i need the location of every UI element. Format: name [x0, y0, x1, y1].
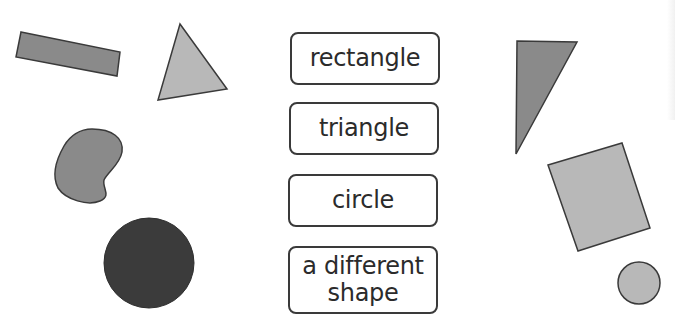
square-shape[interactable] [548, 143, 650, 251]
right-edge-strip [667, 0, 675, 120]
kidney-blob-shape[interactable] [55, 129, 122, 203]
label-text: circle [332, 187, 394, 214]
label-rectangle[interactable]: rectangle [290, 32, 440, 85]
label-different-shape[interactable]: a different shape [288, 246, 438, 314]
label-text: rectangle [310, 45, 421, 72]
triangle-shape-left[interactable] [158, 24, 227, 100]
triangle-shape-right[interactable] [516, 41, 577, 154]
label-text-line-2: shape [328, 280, 399, 307]
small-circle-shape[interactable] [618, 262, 660, 304]
rectangle-shape[interactable] [16, 32, 120, 76]
label-text-line-1: a different [302, 253, 423, 280]
label-circle[interactable]: circle [288, 174, 438, 227]
dark-circle-shape[interactable] [104, 218, 194, 308]
label-text: triangle [319, 115, 409, 142]
label-triangle[interactable]: triangle [289, 102, 439, 155]
